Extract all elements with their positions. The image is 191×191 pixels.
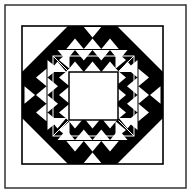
geometric-quilt-pattern (0, 0, 191, 191)
pattern-figure (0, 0, 191, 191)
triangle-octagon-ring (22, 26, 163, 164)
center-square (69, 72, 118, 120)
